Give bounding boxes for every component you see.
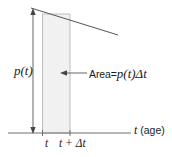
x-axis-unit-text: (age)	[140, 124, 165, 136]
area-annotation: Area=p(t)Δt	[89, 67, 147, 80]
area-annotation-prefix: Area=	[89, 68, 117, 80]
area-annotation-expression: p(t)Δt	[117, 66, 147, 81]
height-label-pt: p(t)	[14, 64, 33, 77]
population-density-diagram: p(t) Area=p(t)Δt t t + Δt t (age)	[0, 0, 172, 157]
x-axis-title: t (age)	[134, 124, 165, 136]
x-tick-label-t-plus-delta-t: t + Δt	[59, 138, 86, 150]
x-tick-label-t: t	[45, 138, 48, 150]
